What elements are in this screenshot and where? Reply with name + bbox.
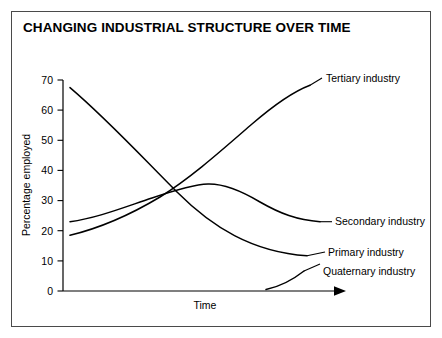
series-label-tertiary: Tertiary industry <box>326 72 401 84</box>
x-axis-title: Time <box>194 299 217 311</box>
series-curve-quaternary <box>266 271 304 290</box>
series-curve-primary <box>70 88 307 256</box>
leader-line-quaternary <box>304 264 320 271</box>
chart-plot-area: 70 60 50 40 30 20 10 0 Percentage employ… <box>12 12 432 328</box>
chart-panel: CHANGING INDUSTRIAL STRUCTURE OVER TIME … <box>11 11 431 327</box>
series-label-secondary: Secondary industry <box>335 215 426 227</box>
y-tick-label-0: 0 <box>47 285 53 297</box>
y-tick-label-40: 40 <box>41 164 53 176</box>
series-label-primary: Primary industry <box>328 246 405 258</box>
y-tick-label-60: 60 <box>41 104 53 116</box>
y-tick-label-10: 10 <box>41 255 53 267</box>
y-tick-label-30: 30 <box>41 194 53 206</box>
y-tick-label-70: 70 <box>41 74 53 86</box>
x-axis-arrow-icon <box>334 286 346 296</box>
y-tick-label-50: 50 <box>41 134 53 146</box>
series-label-quaternary: Quaternary industry <box>323 265 416 277</box>
y-tick-label-20: 20 <box>41 225 53 237</box>
leader-line-tertiary <box>310 78 322 85</box>
y-axis-title: Percentage employed <box>20 134 32 236</box>
leader-line-primary <box>307 252 325 256</box>
series-curve-secondary <box>70 184 320 222</box>
figure-root: CHANGING INDUSTRIAL STRUCTURE OVER TIME … <box>0 0 442 338</box>
